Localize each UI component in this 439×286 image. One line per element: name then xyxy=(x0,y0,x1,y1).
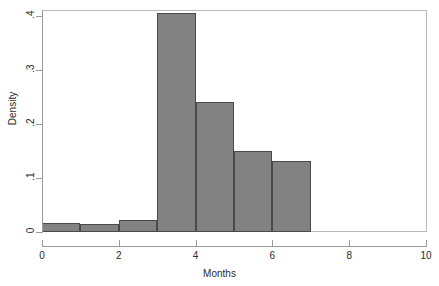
histogram-bar xyxy=(157,13,195,232)
x-tick-label: 10 xyxy=(414,250,438,261)
histogram-bar xyxy=(196,102,234,232)
x-tick-label: 8 xyxy=(337,250,361,261)
histogram-bar xyxy=(42,223,80,232)
x-tick-mark xyxy=(42,240,43,246)
x-tick-mark xyxy=(426,240,427,246)
histogram-bar xyxy=(80,224,118,232)
y-tick-label: 0 xyxy=(0,225,34,236)
histogram-bar xyxy=(272,161,310,232)
x-tick-label: 4 xyxy=(184,250,208,261)
x-tick-mark xyxy=(119,240,120,246)
x-tick-mark xyxy=(196,240,197,246)
y-tick-label: .4 xyxy=(0,9,34,20)
y-tick-mark xyxy=(36,178,42,179)
histogram-bar xyxy=(119,220,157,232)
y-tick-mark xyxy=(36,232,42,233)
y-tick-mark xyxy=(36,124,42,125)
x-tick-label: 6 xyxy=(260,250,284,261)
y-axis-title: Density xyxy=(7,73,18,145)
x-axis-line xyxy=(42,246,427,247)
x-tick-label: 2 xyxy=(107,250,131,261)
y-axis-line xyxy=(42,10,43,233)
x-axis-title: Months xyxy=(0,268,439,279)
y-tick-label: .1 xyxy=(0,171,34,182)
x-tick-mark xyxy=(349,240,350,246)
histogram-chart: 0.1.2.3.4 0246810 Months Density xyxy=(0,0,439,286)
histogram-bars xyxy=(42,10,427,232)
y-tick-mark xyxy=(36,70,42,71)
x-tick-mark xyxy=(272,240,273,246)
x-tick-label: 0 xyxy=(30,250,54,261)
histogram-bar xyxy=(234,151,272,232)
y-tick-mark xyxy=(36,16,42,17)
